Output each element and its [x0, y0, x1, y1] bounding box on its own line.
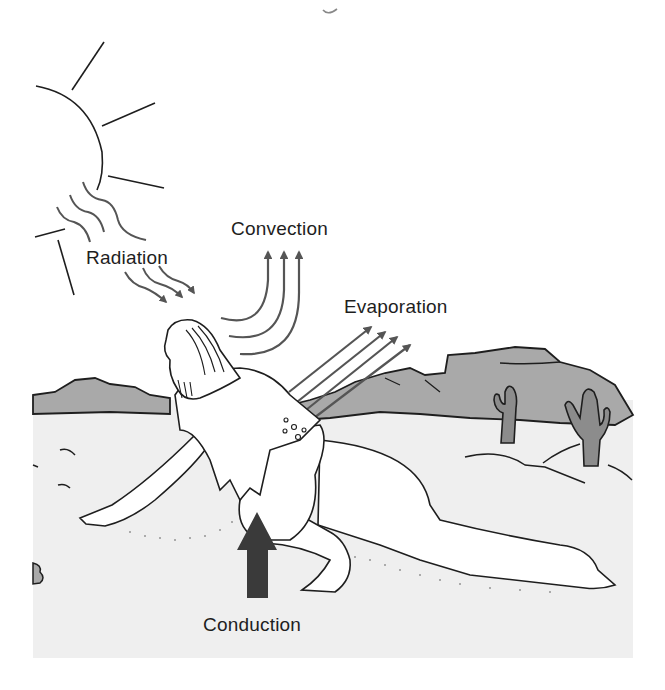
label-evaporation: Evaporation	[344, 296, 448, 318]
sun	[35, 9, 337, 295]
heat-transfer-diagram: Radiation Convection Evaporation Conduct…	[0, 0, 665, 690]
label-convection: Convection	[231, 218, 328, 240]
radiation-waves	[57, 182, 194, 302]
desert-hills	[33, 347, 633, 425]
label-radiation: Radiation	[86, 247, 168, 269]
label-conduction: Conduction	[203, 614, 301, 636]
convection-arrows	[221, 252, 299, 354]
